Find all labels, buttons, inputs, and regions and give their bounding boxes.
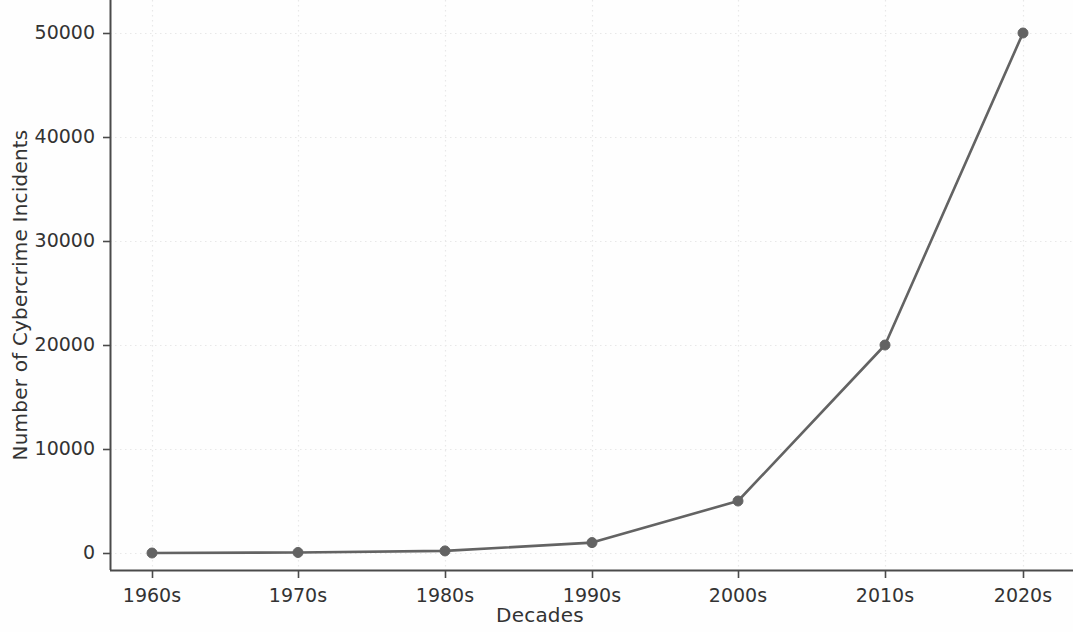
y-tick-label: 10000: [0, 437, 95, 459]
x-tick-label: 2000s: [668, 584, 808, 606]
x-gridlines: [153, 0, 1024, 570]
data-point-marker: [880, 340, 890, 350]
y-axis-title: Number of Cybercrime Incidents: [8, 130, 32, 461]
data-point-marker: [440, 546, 450, 556]
data-point-marker: [587, 538, 597, 548]
data-line: [152, 33, 1023, 553]
line-chart-plot: [0, 0, 1073, 632]
y-axis-ticks: [103, 34, 110, 554]
y-tick-label: 20000: [0, 333, 95, 355]
y-tick-label: 40000: [0, 125, 95, 147]
data-point-marker: [293, 547, 303, 557]
data-point-markers: [147, 28, 1028, 558]
data-point-marker: [1018, 28, 1028, 38]
x-tick-label: 2010s: [815, 584, 955, 606]
x-tick-label: 1990s: [522, 584, 662, 606]
chart-figure: Number of Cybercrime Incidents Decades 0…: [0, 0, 1073, 632]
y-gridlines: [110, 34, 1073, 554]
x-tick-label: 1970s: [228, 584, 368, 606]
data-point-marker: [733, 496, 743, 506]
x-tick-label: 1960s: [82, 584, 222, 606]
x-axis-title: Decades: [40, 603, 1040, 627]
y-tick-label: 30000: [0, 229, 95, 251]
data-point-marker: [147, 548, 157, 558]
x-tick-label: 1980s: [375, 584, 515, 606]
y-tick-label: 0: [0, 541, 95, 563]
axis-spines: [110, 0, 1073, 571]
y-tick-label: 50000: [0, 21, 95, 43]
x-tick-label: 2020s: [953, 584, 1073, 606]
